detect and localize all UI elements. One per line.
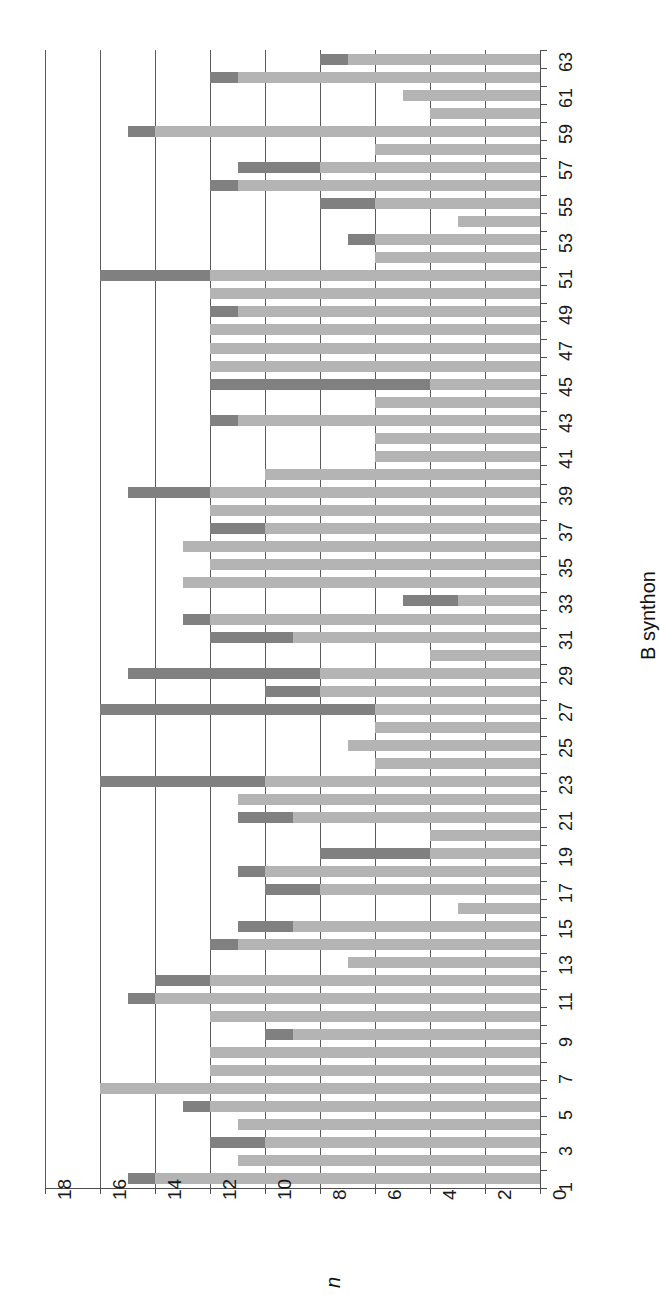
bar-row xyxy=(45,234,540,245)
bar-segment-light xyxy=(238,794,541,805)
category-tick xyxy=(541,917,547,918)
category-tick xyxy=(541,393,547,394)
bar-segment-dark xyxy=(238,866,266,877)
category-tick xyxy=(541,989,547,990)
bar-row xyxy=(45,1047,540,1058)
category-tick xyxy=(541,411,547,412)
bar-segment-light xyxy=(375,722,540,733)
bar-segment-light xyxy=(183,577,541,588)
bar-segment-light xyxy=(293,921,541,932)
category-tick xyxy=(541,1116,547,1117)
bar-segment-dark xyxy=(320,198,375,209)
bar-segment-dark xyxy=(183,1101,211,1112)
bar-segment-dark xyxy=(403,595,458,606)
category-axis-label: 13 xyxy=(556,955,577,975)
bar-segment-light xyxy=(293,812,541,823)
bar-segment-light xyxy=(458,903,541,914)
bar-row xyxy=(45,288,540,299)
category-tick xyxy=(541,1007,547,1008)
value-axis-label: 10 xyxy=(274,1179,296,1200)
bar-segment-dark xyxy=(265,686,320,697)
bar-row xyxy=(45,740,540,751)
bar-segment-dark xyxy=(210,939,238,950)
bar-segment-light xyxy=(210,1065,540,1076)
bar-row xyxy=(45,198,540,209)
bar-row xyxy=(45,632,540,643)
bar-segment-dark xyxy=(210,632,293,643)
category-tick xyxy=(541,339,547,340)
bar-row xyxy=(45,993,540,1004)
bar-row xyxy=(45,1029,540,1040)
bar-segment-light xyxy=(210,975,540,986)
category-axis-label: 59 xyxy=(556,124,577,144)
bar-row xyxy=(45,469,540,480)
category-tick xyxy=(541,357,547,358)
bar-segment-dark xyxy=(210,379,430,390)
bar-row xyxy=(45,884,540,895)
category-tick xyxy=(541,195,547,196)
category-axis-label: 11 xyxy=(556,993,577,1012)
category-tick xyxy=(541,538,547,539)
category-tick xyxy=(541,267,547,268)
bar-row xyxy=(45,1083,540,1094)
bar-segment-light xyxy=(430,379,540,390)
category-axis-title: B synthon xyxy=(637,571,660,660)
bar-segment-light xyxy=(210,505,540,516)
bar-segment-dark xyxy=(128,487,211,498)
value-tick xyxy=(155,1188,156,1194)
bar-row xyxy=(45,776,540,787)
category-tick xyxy=(541,556,547,557)
bar-row xyxy=(45,541,540,552)
bar-row xyxy=(45,1101,540,1112)
category-tick xyxy=(541,520,547,521)
bar-segment-light xyxy=(458,595,541,606)
bar-row xyxy=(45,866,540,877)
bar-row xyxy=(45,90,540,101)
value-axis-label: 16 xyxy=(109,1179,131,1200)
category-axis-label: 25 xyxy=(556,738,577,758)
category-axis-label: 17 xyxy=(556,883,577,903)
category-tick xyxy=(541,321,547,322)
category-tick xyxy=(541,700,547,701)
bar-segment-dark xyxy=(238,162,321,173)
category-axis-label: 57 xyxy=(556,160,577,180)
bar-segment-light xyxy=(155,1173,540,1184)
category-tick xyxy=(541,1170,547,1171)
value-axis-label: 6 xyxy=(384,1189,406,1200)
value-axis-label: 12 xyxy=(219,1179,241,1200)
category-tick xyxy=(541,1025,547,1026)
bar-row xyxy=(45,487,540,498)
bar-segment-dark xyxy=(265,884,320,895)
bar-row xyxy=(45,126,540,137)
bar-segment-light xyxy=(430,848,540,859)
value-tick xyxy=(45,1188,46,1194)
value-tick xyxy=(375,1188,376,1194)
category-tick xyxy=(541,86,547,87)
bar-segment-light xyxy=(403,90,541,101)
bar-segment-light xyxy=(210,559,540,570)
bar-row xyxy=(45,903,540,914)
bar-segment-light xyxy=(265,469,540,480)
category-tick xyxy=(541,971,547,972)
category-axis-label: 41 xyxy=(556,449,577,469)
bar-segment-light xyxy=(238,72,541,83)
category-tick xyxy=(541,447,547,448)
bar-row xyxy=(45,306,540,317)
value-axis-label: 18 xyxy=(54,1179,76,1200)
category-tick xyxy=(541,592,547,593)
bar-segment-light xyxy=(265,1137,540,1148)
bar-segment-light xyxy=(375,144,540,155)
category-axis-label: 9 xyxy=(556,1037,577,1047)
category-axis-label: 61 xyxy=(556,88,577,108)
category-axis-label: 35 xyxy=(556,558,577,578)
bar-segment-light xyxy=(293,1029,541,1040)
category-tick xyxy=(541,863,547,864)
rotated-chart-root: 024681012141618 n 1357911131517192123252… xyxy=(0,0,660,1295)
bar-segment-dark xyxy=(100,704,375,715)
bar-segment-light xyxy=(430,650,540,661)
bar-segment-light xyxy=(458,216,541,227)
category-tick xyxy=(541,718,547,719)
bar-segment-light xyxy=(348,54,541,65)
bar-row xyxy=(45,1119,540,1130)
bar-segment-light xyxy=(375,433,540,444)
